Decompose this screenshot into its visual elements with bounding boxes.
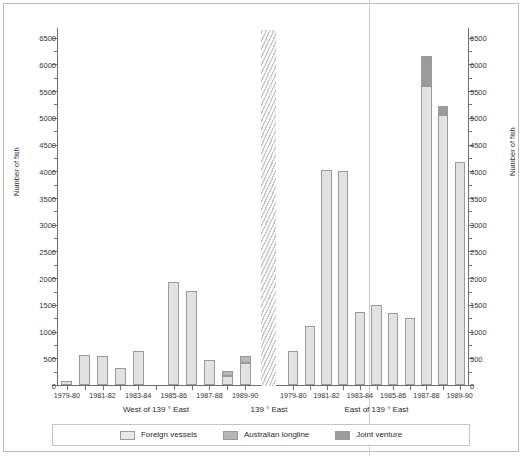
x-tick	[174, 386, 175, 390]
x-tick	[138, 386, 139, 390]
bar-segment[interactable]	[97, 356, 108, 385]
bar[interactable]	[455, 162, 465, 385]
bar[interactable]	[222, 371, 233, 385]
bar-segment[interactable]	[405, 318, 415, 385]
x-tick-label: 1981-82	[83, 392, 123, 399]
bar-segment[interactable]	[421, 86, 431, 385]
bar[interactable]	[405, 318, 415, 385]
bar[interactable]	[204, 360, 215, 385]
x-tick	[377, 386, 378, 390]
x-tick	[103, 386, 104, 390]
panel-caption-west: West of 139 ° East	[58, 406, 254, 414]
bar[interactable]	[421, 56, 431, 385]
y-tick-minor	[54, 211, 57, 212]
bar-segment[interactable]	[338, 171, 348, 385]
y-tick-minor	[469, 211, 472, 212]
plot-area: 0500100015002000250030003500400045005000…	[57, 28, 469, 386]
y-tick-label: 6500	[470, 35, 487, 43]
y-tick-label: 3000	[470, 222, 487, 230]
bar-segment[interactable]	[133, 351, 144, 385]
x-tick-label: 1989-90	[440, 392, 480, 399]
bar-segment[interactable]	[204, 360, 215, 385]
y-tick-minor	[469, 185, 472, 186]
x-tick-label: 1979-80	[47, 392, 87, 399]
y-tick-label: 3500	[470, 196, 487, 204]
y-tick-label: 1000	[470, 329, 487, 337]
legend-swatch-icon-joint-venture	[335, 431, 350, 440]
bar[interactable]	[371, 305, 381, 385]
chart-page: 0500100015002000250030003500400045005000…	[0, 0, 523, 456]
bar[interactable]	[388, 313, 398, 385]
x-tick-label: 1989-90	[225, 392, 265, 399]
bar[interactable]	[79, 355, 90, 385]
y-tick-label: 4500	[470, 142, 487, 150]
bar-segment[interactable]	[222, 371, 233, 376]
x-tick	[85, 386, 86, 390]
bar-segment[interactable]	[79, 355, 90, 385]
y-tick-label: 6500	[39, 35, 56, 43]
bar-segment[interactable]	[305, 326, 315, 385]
bar-segment[interactable]	[288, 351, 298, 385]
y-tick-label: 3000	[39, 222, 56, 230]
y-tick-label: 6000	[39, 62, 56, 70]
y-tick-minor	[54, 185, 57, 186]
y-tick-minor	[54, 51, 57, 52]
bar[interactable]	[97, 356, 108, 385]
x-tick	[360, 386, 361, 390]
bar[interactable]	[240, 356, 251, 385]
bar[interactable]	[168, 282, 179, 385]
x-tick	[460, 386, 461, 390]
y-tick-label: 5000	[470, 115, 487, 123]
y-tick-minor	[54, 345, 57, 346]
y-tick-label: 4000	[39, 169, 56, 177]
y-tick-minor	[54, 292, 57, 293]
bar-segment[interactable]	[61, 381, 72, 385]
bar-segment[interactable]	[455, 162, 465, 385]
bar[interactable]	[115, 368, 126, 385]
bar-segment[interactable]	[240, 363, 251, 385]
bar[interactable]	[321, 170, 331, 385]
y-tick-minor	[54, 265, 57, 266]
bar-segment[interactable]	[115, 368, 126, 385]
bar[interactable]	[355, 312, 365, 385]
panel-east-bars	[285, 28, 468, 385]
x-tick	[227, 386, 228, 390]
bar-segment[interactable]	[438, 106, 448, 115]
y-tick-minor	[54, 158, 57, 159]
bar[interactable]	[305, 326, 315, 385]
bar[interactable]	[338, 171, 348, 385]
x-tick	[393, 386, 394, 390]
bar-segment[interactable]	[438, 115, 448, 385]
x-tick	[192, 386, 193, 390]
y-tick-label: 500	[470, 356, 483, 364]
bar-segment[interactable]	[168, 282, 179, 385]
y-tick-minor	[469, 318, 472, 319]
bar-segment[interactable]	[421, 56, 431, 85]
bar[interactable]	[61, 381, 72, 385]
x-tick	[327, 386, 328, 390]
bar[interactable]	[186, 291, 197, 385]
bar-segment[interactable]	[371, 305, 381, 385]
bar-segment[interactable]	[321, 170, 331, 385]
bar-segment[interactable]	[240, 356, 251, 362]
bar[interactable]	[133, 351, 144, 385]
y-tick-minor	[469, 78, 472, 79]
x-tick	[209, 386, 210, 390]
bar-segment[interactable]	[388, 313, 398, 385]
y-tick-minor	[54, 78, 57, 79]
y-tick-label: 6000	[470, 62, 487, 70]
legend-swatch-icon-foreign-vessels	[120, 431, 135, 440]
x-tick	[310, 386, 311, 390]
bar[interactable]	[288, 351, 298, 385]
y-tick-label: 3500	[39, 196, 56, 204]
y-tick-minor	[469, 131, 472, 132]
y-axis-left-title: Number of fish	[13, 147, 21, 196]
x-tick	[343, 386, 344, 390]
bar-segment[interactable]	[222, 376, 233, 385]
bar-segment[interactable]	[355, 312, 365, 385]
chart-legend: Foreign vessels Australian longline Join…	[52, 424, 470, 446]
y-tick-label: 4500	[39, 142, 56, 150]
bar-segment[interactable]	[186, 291, 197, 385]
bar[interactable]	[438, 106, 448, 385]
x-tick	[245, 386, 246, 390]
